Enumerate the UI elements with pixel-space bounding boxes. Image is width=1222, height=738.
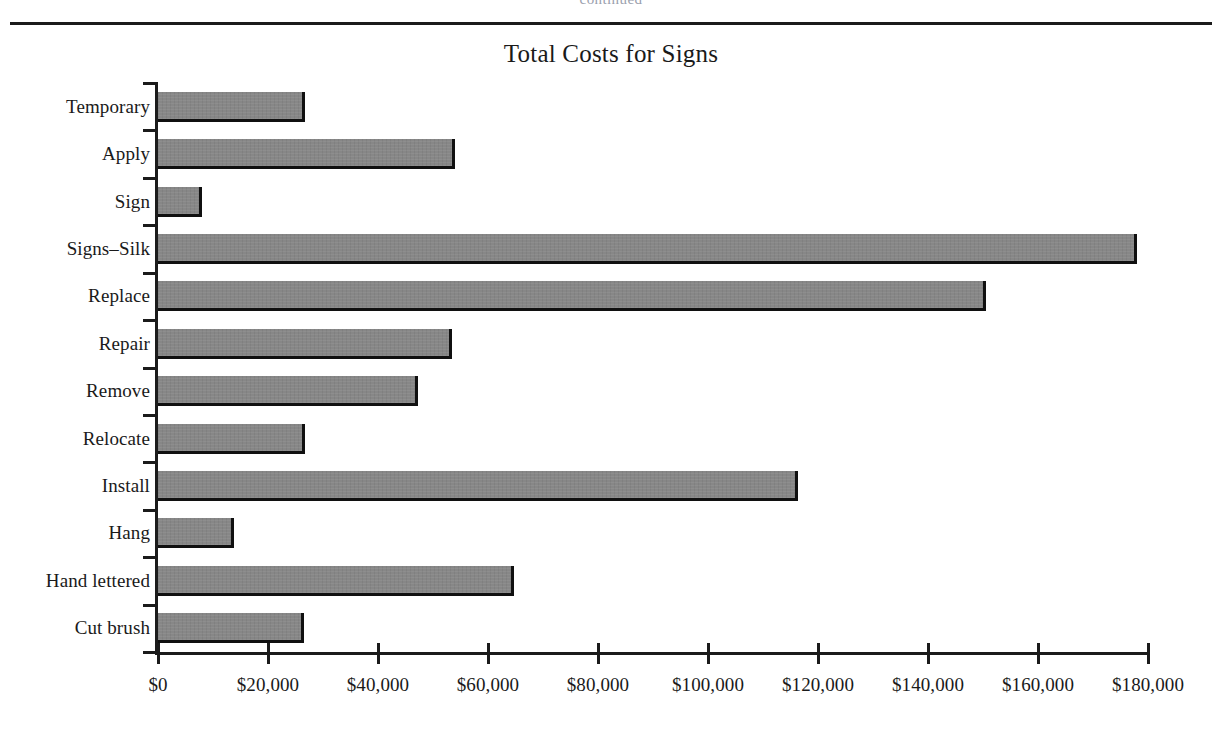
- bar-chart-plot-area: $0$20,000$40,000$60,000$80,000$100,000$1…: [0, 25, 1222, 738]
- category-axis-tick-label: Replace: [88, 285, 150, 307]
- category-axis-tick-label: Temporary: [66, 96, 150, 118]
- bar: [158, 281, 986, 311]
- value-axis-tick: [1037, 643, 1040, 664]
- value-axis-tick-label: $180,000: [1112, 673, 1184, 697]
- category-axis-tick: [143, 509, 158, 512]
- value-axis-tick: [1147, 643, 1150, 664]
- value-axis-tick: [487, 643, 490, 664]
- category-axis-tick-label: Repair: [99, 333, 150, 355]
- value-axis-tick-label: $120,000: [782, 673, 854, 697]
- bar: [158, 92, 305, 122]
- value-axis-tick-label: $160,000: [1002, 673, 1074, 697]
- bar: [158, 376, 418, 406]
- category-axis-tick: [143, 129, 158, 132]
- value-axis-tick-label: $20,000: [237, 673, 299, 697]
- category-axis-tick: [143, 272, 158, 275]
- category-axis-tick: [143, 82, 158, 85]
- value-axis-tick: [817, 643, 820, 664]
- category-axis-tick: [143, 224, 158, 227]
- category-axis-tick-label: Apply: [102, 143, 150, 165]
- category-axis-tick: [143, 556, 158, 559]
- category-axis-tick-label: Install: [102, 475, 150, 497]
- value-axis-tick: [597, 643, 600, 664]
- value-axis-tick: [927, 643, 930, 664]
- category-axis-tick-label: Hang: [108, 522, 150, 544]
- bar: [158, 187, 202, 217]
- bar: [158, 518, 234, 548]
- value-axis-tick-label: $80,000: [567, 673, 629, 697]
- category-axis-tick-label: Remove: [86, 380, 150, 402]
- figure-total-costs-for-signs: Total Costs for Signs $0$20,000$40,000$6…: [0, 25, 1222, 738]
- running-head-text: continued: [0, 0, 1222, 8]
- bar: [158, 329, 452, 359]
- category-axis-tick-label: Relocate: [83, 428, 150, 450]
- bar: [158, 139, 455, 169]
- category-axis-tick-label: Cut brush: [75, 617, 150, 639]
- value-axis-tick: [707, 643, 710, 664]
- value-axis-line: [155, 652, 1150, 655]
- value-axis-tick-label: $100,000: [672, 673, 744, 697]
- bar: [158, 424, 305, 454]
- bar: [158, 566, 514, 596]
- value-axis-tick-label: $0: [148, 673, 167, 697]
- value-axis-tick: [377, 643, 380, 664]
- category-axis-tick: [143, 177, 158, 180]
- page-running-head: continued: [0, 0, 1222, 14]
- value-axis-tick-label: $140,000: [892, 673, 964, 697]
- value-axis-tick-label: $40,000: [347, 673, 409, 697]
- bar: [158, 613, 304, 643]
- category-axis-tick: [143, 604, 158, 607]
- value-axis-tick: [267, 643, 270, 664]
- category-axis-tick: [143, 651, 158, 654]
- bar: [158, 471, 798, 501]
- value-axis-tick: [157, 643, 160, 664]
- category-axis-tick: [143, 367, 158, 370]
- category-axis-tick: [143, 414, 158, 417]
- category-axis-tick: [143, 319, 158, 322]
- value-axis-tick-label: $60,000: [457, 673, 519, 697]
- category-axis-tick-label: Sign: [115, 191, 150, 213]
- category-axis-tick-label: Signs–Silk: [67, 238, 150, 260]
- category-axis-tick: [143, 461, 158, 464]
- category-axis-tick-label: Hand lettered: [46, 570, 150, 592]
- bar: [158, 234, 1137, 264]
